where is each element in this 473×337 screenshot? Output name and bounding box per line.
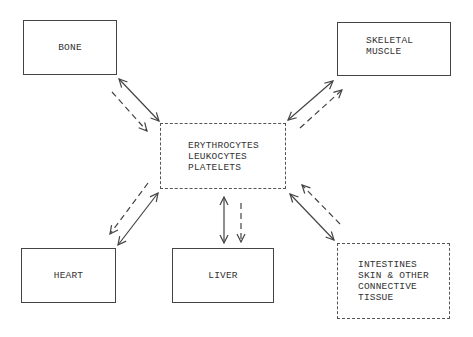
- bone-box: BONE: [23, 20, 117, 75]
- intestines-line4: TISSUE: [358, 292, 393, 303]
- blood-cells-box: ERYTHROCYTES LEUKOCYTES PLATELETS: [160, 123, 286, 189]
- heart-box: HEART: [21, 248, 116, 303]
- skeletal-muscle-box: SKELETAL MUSCLE: [337, 22, 451, 76]
- bone-dashed-arrow: [112, 92, 147, 131]
- skeletal-label-line2: MUSCLE: [366, 46, 401, 57]
- heart-solid-arrow: [118, 193, 158, 245]
- heart-label: HEART: [54, 270, 84, 281]
- center-line3: PLATELETS: [188, 162, 241, 173]
- heart-dashed-arrow: [110, 183, 148, 234]
- intestines-line2: SKIN & OTHER: [358, 270, 429, 281]
- intestines-box: INTESTINES SKIN & OTHER CONNECTIVE TISSU…: [337, 243, 450, 319]
- liver-box: LIVER: [172, 248, 274, 303]
- skeletal-label-line1: SKELETAL: [366, 35, 413, 46]
- liver-label: LIVER: [208, 270, 238, 281]
- skeletal-solid-arrow: [288, 81, 333, 120]
- skeletal-dashed-arrow: [300, 90, 342, 128]
- bone-label: BONE: [58, 42, 82, 53]
- center-line2: LEUKOCYTES: [188, 151, 247, 162]
- intestines-line1: INTESTINES: [358, 259, 417, 270]
- intestines-solid-arrow: [290, 194, 334, 240]
- intestines-line3: CONNECTIVE: [358, 281, 417, 292]
- bone-solid-arrow: [119, 79, 159, 121]
- intestines-dashed-arrow: [302, 185, 340, 224]
- center-line1: ERYTHROCYTES: [188, 140, 259, 151]
